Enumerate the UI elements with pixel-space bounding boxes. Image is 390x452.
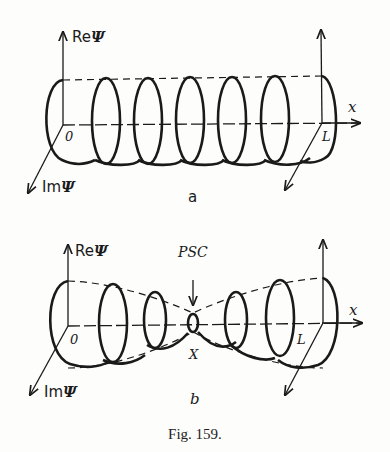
right-im-axis-a bbox=[285, 123, 322, 190]
end-label-b: L bbox=[297, 333, 306, 346]
helix-a bbox=[46, 76, 336, 165]
panel-a bbox=[28, 30, 360, 193]
im-psi-label-a: ImΨ bbox=[42, 180, 75, 195]
panel-b bbox=[30, 240, 362, 395]
right-re-axis-a bbox=[321, 30, 322, 123]
re-psi-label-b: ReΨ bbox=[75, 244, 108, 259]
panel-label-a: a bbox=[188, 190, 197, 205]
psc-label: PSC bbox=[178, 245, 208, 259]
re-psi-label-a: ReΨ bbox=[72, 30, 105, 45]
x-label-a: x bbox=[348, 100, 356, 115]
figure-caption: Fig. 159. bbox=[0, 426, 390, 443]
im-psi-label-b: ImΨ bbox=[44, 385, 77, 400]
panel-label-b: b bbox=[190, 392, 200, 407]
end-label-a: L bbox=[322, 130, 331, 143]
x-axis-b bbox=[68, 323, 362, 326]
origin-label-a: 0 bbox=[65, 130, 73, 143]
x-axis-a bbox=[63, 123, 360, 125]
origin-label-b: 0 bbox=[70, 333, 78, 346]
x-label-b: x bbox=[349, 303, 357, 318]
x-point-label: X bbox=[189, 348, 198, 361]
